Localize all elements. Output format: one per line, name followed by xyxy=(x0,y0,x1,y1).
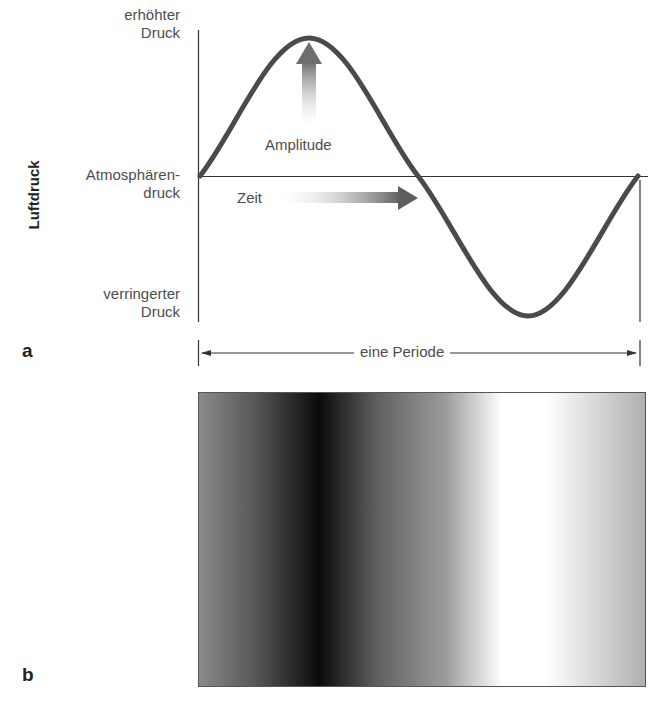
period-label: eine Periode xyxy=(354,343,450,360)
time-label: Zeit xyxy=(237,189,262,206)
panel-b-letter: b xyxy=(22,664,34,686)
sine-wave-diagram xyxy=(0,0,662,400)
pressure-density-bands xyxy=(198,392,646,687)
amplitude-arrow-icon xyxy=(296,42,322,126)
time-arrow-icon xyxy=(282,186,418,210)
panel-a-letter: a xyxy=(22,340,33,362)
amplitude-label: Amplitude xyxy=(265,136,332,153)
